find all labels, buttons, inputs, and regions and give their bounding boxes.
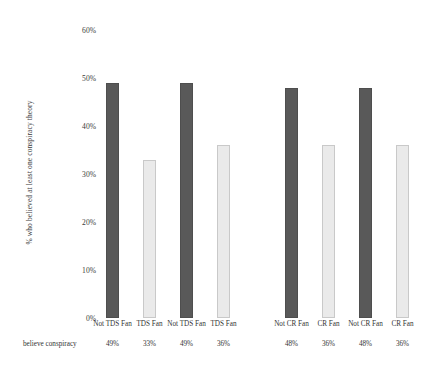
- bar-4: [285, 88, 298, 318]
- bar-1: [143, 160, 156, 318]
- bar-7: [396, 145, 409, 318]
- bar-2: [180, 83, 193, 318]
- bar-6: [359, 88, 372, 318]
- category-label-3: TDS Fan: [201, 320, 247, 329]
- bar-3: [217, 145, 230, 318]
- category-label-7: CR Fan: [380, 320, 426, 329]
- bar-5: [322, 145, 335, 318]
- conspiracy-belief-bar-chart: % who believed at least one conspiracy t…: [0, 0, 439, 369]
- value-cell-7: 36%: [380, 340, 426, 348]
- bar-0: [106, 83, 119, 318]
- value-cell-3: 36%: [201, 340, 247, 348]
- value-row-label: believe conspiracy: [23, 340, 97, 348]
- plot-area: [0, 0, 439, 369]
